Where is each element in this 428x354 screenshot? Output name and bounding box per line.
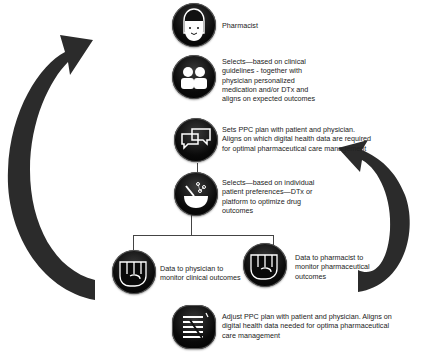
- checklist-icon: [172, 305, 216, 349]
- step-selects-clinical-text: Selects—based on clinicalguidelines - to…: [222, 57, 315, 103]
- step-data-pharmacist-text: Data to pharmacist tomonitor pharmaceuti…: [295, 253, 370, 281]
- connector-horizontal: [133, 235, 273, 236]
- step-selects-preferences-text: Selects—based on individualpatient prefe…: [222, 178, 314, 215]
- bowl-network-icon: [174, 172, 218, 216]
- person-face-icon: [172, 3, 216, 47]
- step-sets-ppc-text: Sets PPC plan with patient and physician…: [222, 125, 371, 153]
- connector-vertical-2: [191, 215, 192, 235]
- two-people-icon: [172, 55, 216, 99]
- fist-icon: [243, 243, 287, 287]
- speech-bubbles-icon: [174, 118, 218, 162]
- step-adjust-ppc-text: Adjust PPC plan with patient and physici…: [222, 312, 392, 340]
- step-pharmacist-label: Pharmacist: [222, 21, 258, 30]
- fist-icon: [112, 250, 156, 294]
- step-data-physician-text: Data to physician tomonitor clinical out…: [160, 264, 241, 283]
